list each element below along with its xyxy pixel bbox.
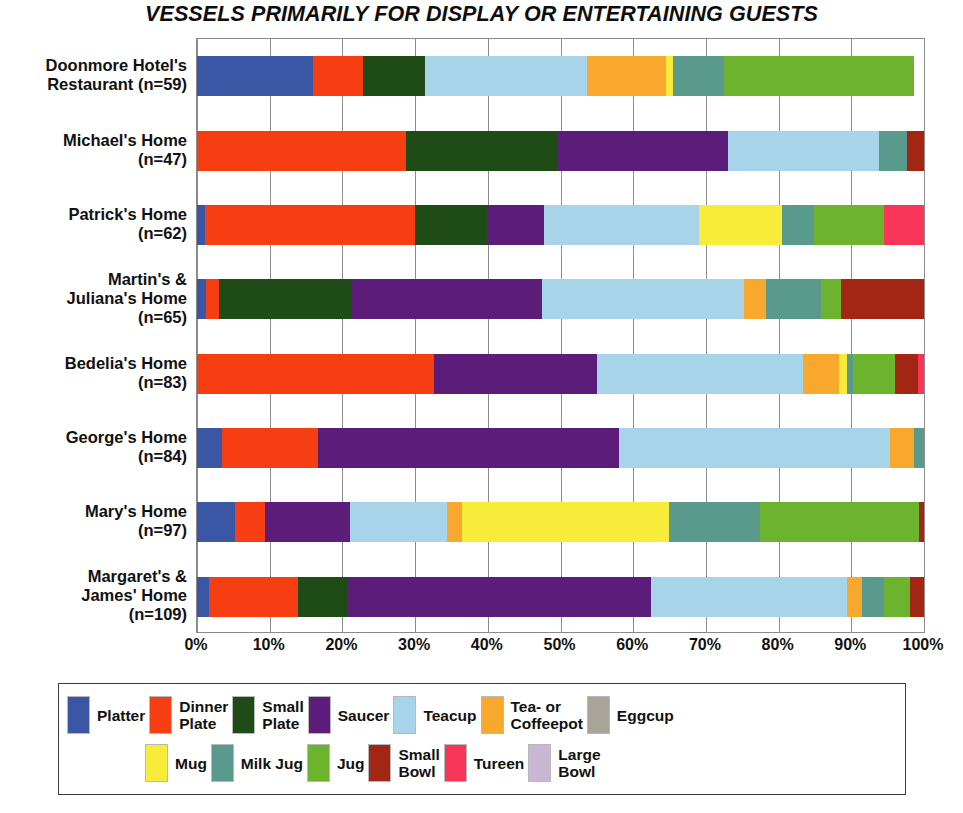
value-tick-label: 0% [184, 636, 207, 654]
legend-item[interactable]: Platter [67, 696, 145, 734]
legend-item[interactable]: Milk Jug [211, 744, 303, 782]
stacked-bar [197, 205, 924, 245]
category-label-line: (n=83) [0, 373, 187, 392]
value-tick-label: 50% [543, 636, 575, 654]
bar-segment [425, 56, 587, 96]
legend-item[interactable]: Eggcup [587, 696, 674, 734]
legend-swatch-icon [149, 696, 172, 734]
legend-label: Small Bowl [398, 746, 439, 780]
stacked-bar [197, 428, 924, 468]
bar-segment [884, 205, 924, 245]
legend-item[interactable]: Tea- or Coffeepot [481, 696, 583, 734]
bar-segment [406, 131, 558, 171]
bar-segment [587, 56, 666, 96]
category-label-line: (n=62) [0, 224, 187, 243]
legend-swatch-icon [528, 744, 551, 782]
category-label-line: Martin's & [0, 270, 187, 289]
legend-item[interactable]: Dinner Plate [149, 696, 228, 734]
category-label-line: James' Home [0, 586, 187, 605]
category-label: Patrick's Home(n=62) [0, 205, 187, 243]
legend-item[interactable]: Tureen [444, 744, 525, 782]
bar-segment [895, 354, 918, 394]
bar-rows [197, 39, 924, 632]
chart-page: VESSELS PRIMARILY FOR DISPLAY OR ENTERTA… [0, 0, 963, 813]
legend-item[interactable]: Small Bowl [368, 744, 439, 782]
gridline [924, 39, 925, 632]
bar-segment [415, 205, 487, 245]
bar-segment [434, 354, 597, 394]
bar-segment [197, 279, 206, 319]
plot-area [196, 38, 925, 633]
category-label: Margaret's &James' Home(n=109) [0, 567, 187, 624]
category-label-line: Juliana's Home [0, 289, 187, 308]
category-label-line: Patrick's Home [0, 205, 187, 224]
legend-item[interactable]: Jug [307, 744, 365, 782]
bar-row [197, 131, 924, 171]
category-label: Martin's &Juliana's Home(n=65) [0, 270, 187, 327]
bar-segment [197, 205, 205, 245]
legend-label: Small Plate [262, 698, 303, 732]
bar-segment [206, 279, 219, 319]
category-label-line: (n=47) [0, 150, 187, 169]
bar-segment [651, 577, 847, 617]
legend-swatch-icon [368, 744, 391, 782]
bar-row [197, 502, 924, 542]
bar-segment [814, 205, 884, 245]
category-label-line: Restaurant (n=59) [0, 75, 187, 94]
bar-segment [350, 502, 447, 542]
legend-swatch-icon [587, 696, 610, 734]
category-label: Doonmore Hotel'sRestaurant (n=59) [0, 56, 187, 94]
legend-label: Mug [175, 755, 207, 772]
legend-swatch-icon [145, 744, 168, 782]
bar-segment [821, 279, 841, 319]
legend-item[interactable]: Saucer [308, 696, 390, 734]
bar-segment [558, 131, 727, 171]
bar-segment [724, 56, 914, 96]
value-tick-label: 30% [398, 636, 430, 654]
bar-segment [847, 577, 862, 617]
bar-segment [597, 354, 803, 394]
legend-swatch-icon [481, 696, 504, 734]
bar-row [197, 428, 924, 468]
bar-segment [907, 131, 924, 171]
legend-label: Jug [337, 755, 365, 772]
bar-segment [222, 428, 318, 468]
page-title: VESSELS PRIMARILY FOR DISPLAY OR ENTERTA… [0, 2, 963, 27]
legend-row-1: PlatterDinner PlateSmall PlateSaucerTeac… [59, 692, 905, 738]
bar-segment [879, 131, 907, 171]
legend-item[interactable]: Large Bowl [528, 744, 600, 782]
value-tick-label: 20% [325, 636, 357, 654]
bar-row [197, 205, 924, 245]
bar-segment [265, 502, 350, 542]
bar-segment [760, 502, 918, 542]
category-label: Michael's Home(n=47) [0, 131, 187, 169]
bar-segment [544, 205, 700, 245]
category-axis-labels: Doonmore Hotel'sRestaurant (n=59)Michael… [0, 38, 193, 633]
bar-segment [487, 205, 544, 245]
legend-item[interactable]: Teacup [393, 696, 476, 734]
bar-segment [313, 56, 363, 96]
bar-segment [919, 502, 924, 542]
value-tick-label: 10% [253, 636, 285, 654]
bar-segment [862, 577, 884, 617]
stacked-bar [197, 354, 924, 394]
bar-segment [841, 279, 924, 319]
category-label-line: Michael's Home [0, 131, 187, 150]
bar-segment [803, 354, 839, 394]
bar-segment [699, 205, 782, 245]
bar-segment [619, 428, 890, 468]
bar-segment [669, 502, 761, 542]
bar-segment [363, 56, 425, 96]
value-axis-labels: 0%10%20%30%40%50%60%70%80%90%100% [0, 636, 963, 662]
bar-segment [766, 279, 821, 319]
bar-segment [318, 428, 619, 468]
stacked-bar [197, 131, 924, 171]
legend-label: Large Bowl [558, 746, 600, 780]
legend-label: Tureen [474, 755, 525, 772]
legend-item[interactable]: Mug [145, 744, 207, 782]
bar-segment [298, 577, 347, 617]
legend-item[interactable]: Small Plate [232, 696, 303, 734]
legend-row-2: MugMilk JugJugSmall BowlTureenLarge Bowl [59, 740, 905, 786]
bar-row [197, 354, 924, 394]
legend-label: Eggcup [617, 707, 674, 724]
